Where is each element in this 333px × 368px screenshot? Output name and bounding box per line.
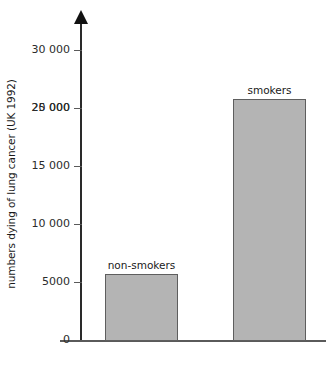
y-tick-label-0: 0 (63, 334, 70, 345)
y-tick-mark (74, 340, 82, 341)
y-tick-mark (74, 108, 82, 109)
y-axis-arrow-icon (74, 10, 88, 24)
y-tick-label-10000: 10 000 (32, 218, 71, 229)
y-tick-mark (74, 166, 82, 167)
y-tick-label-20000: 20 000 (32, 102, 71, 113)
y-tick-mark (74, 50, 82, 51)
y-axis-title: numbers dying of lung cancer (UK 1992) (0, 0, 22, 368)
y-tick-mark (74, 282, 82, 283)
bar-chart: numbers dying of lung cancer (UK 1992) 3… (0, 0, 333, 368)
bar-label-smokers: smokers (223, 84, 316, 96)
y-tick-mark (74, 224, 82, 225)
bar-non-smokers[interactable] (105, 274, 178, 341)
bar-label-non-smokers: non-smokers (95, 259, 188, 271)
bar-smokers[interactable] (233, 99, 306, 341)
y-tick-label-5000: 5000 (42, 276, 70, 287)
y-axis-line (80, 20, 82, 342)
y-tick-label-15000: 15 000 (32, 160, 71, 171)
y-tick-label-30000: 30 000 (32, 44, 71, 55)
